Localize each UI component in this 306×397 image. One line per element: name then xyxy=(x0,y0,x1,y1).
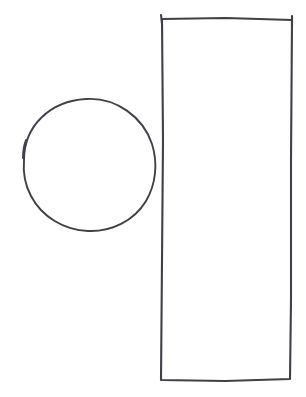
paper-background xyxy=(0,0,306,397)
sketch-canvas: Hand-drawn shapes sketch A hand-drawn ci… xyxy=(0,0,306,397)
rectangle-top-left-tick-icon xyxy=(161,15,162,24)
sketch-drawing xyxy=(0,0,306,397)
